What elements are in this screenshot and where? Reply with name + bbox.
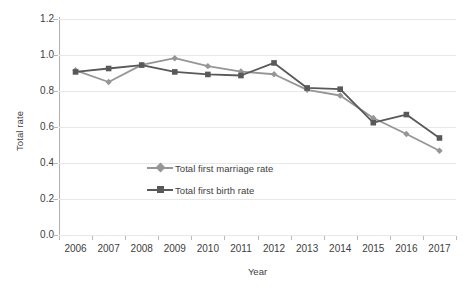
x-axis-tick-mark	[59, 236, 60, 240]
x-axis-title: Year	[59, 266, 456, 277]
x-axis-tick-mark	[456, 236, 457, 240]
legend-label-marriage: Total first marriage rate	[175, 163, 273, 174]
data-point	[205, 63, 211, 69]
data-point	[139, 62, 145, 68]
data-point	[271, 71, 277, 77]
legend-label-birth: Total first birth rate	[175, 185, 254, 196]
data-point	[370, 120, 376, 126]
x-axis-tick-mark	[357, 236, 358, 240]
y-axis-tick-mark	[53, 199, 58, 200]
y-axis-tick-label: 0.6	[24, 122, 54, 132]
y-axis-tick-mark	[53, 235, 58, 236]
x-axis-tick-mark	[92, 236, 93, 240]
x-axis-tick-mark	[191, 236, 192, 240]
data-point	[403, 131, 409, 137]
line-chart: Total rate 0.00.20.40.60.81.01.2 2006200…	[0, 0, 463, 291]
y-axis-tick-mark	[53, 55, 58, 56]
x-axis-tick-label: 2017	[419, 243, 459, 255]
x-axis-tick-mark	[324, 236, 325, 240]
x-axis-tick-marks	[59, 236, 456, 240]
legend-swatch-birth-icon	[147, 184, 173, 196]
x-axis-tick-mark	[258, 236, 259, 240]
legend-item-birth[interactable]: Total first birth rate	[147, 179, 347, 201]
chart-legend: Total first marriage rate Total first bi…	[147, 157, 347, 201]
y-axis-tick-label: 0.8	[24, 86, 54, 96]
legend-swatch-marriage-icon	[147, 162, 173, 174]
y-axis-tick-label: 0.2	[24, 194, 54, 204]
y-axis-tick-label: 0.4	[24, 158, 54, 168]
data-point	[238, 73, 244, 79]
x-axis-tick-mark	[390, 236, 391, 240]
data-point	[73, 69, 79, 75]
y-axis-tick-mark	[53, 19, 58, 20]
y-axis-tick-labels: 0.00.20.40.60.81.01.2	[22, 0, 54, 291]
series-layer	[59, 19, 456, 235]
x-axis-tick-mark	[291, 236, 292, 240]
data-point	[172, 55, 178, 61]
data-point	[337, 86, 343, 92]
data-point	[106, 66, 112, 72]
data-point	[436, 148, 442, 154]
legend-item-marriage[interactable]: Total first marriage rate	[147, 157, 347, 179]
x-axis-tick-labels: 2006200720082009201020112012201320142015…	[59, 243, 456, 257]
y-axis-tick-mark	[53, 127, 58, 128]
x-axis-tick-mark	[125, 236, 126, 240]
x-axis-tick-mark	[423, 236, 424, 240]
plot-area	[59, 19, 456, 235]
y-axis-tick-mark	[53, 91, 58, 92]
series-line	[76, 58, 440, 151]
y-axis-tick-label: 1.0	[24, 50, 54, 60]
data-point	[437, 135, 443, 141]
y-axis-tick-label: 1.2	[24, 14, 54, 24]
data-point	[105, 79, 111, 85]
x-axis-tick-mark	[224, 236, 225, 240]
data-point	[172, 69, 178, 75]
data-point	[304, 85, 310, 91]
y-axis-tick-mark	[53, 163, 58, 164]
data-point	[404, 112, 410, 118]
y-axis-tick-label: 0.0	[24, 230, 54, 240]
data-point	[271, 60, 277, 66]
data-point	[205, 72, 211, 78]
series-line	[76, 63, 440, 138]
x-axis-tick-mark	[158, 236, 159, 240]
